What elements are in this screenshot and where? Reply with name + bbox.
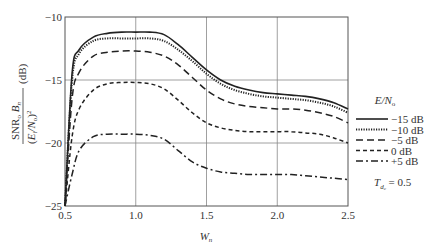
y-tick-label: −15 bbox=[45, 74, 63, 86]
svg-text:(dB): (dB) bbox=[16, 64, 29, 85]
y-tick-label: −10 bbox=[45, 11, 63, 23]
snr-chart: 0.51.01.52.02.5−10−15−20−25 SNRo Bn (Ei/… bbox=[0, 0, 439, 251]
x-axis-label: Wn bbox=[200, 230, 213, 244]
svg-text:(Ei/No)2: (Ei/No)2 bbox=[25, 110, 39, 144]
y-tick-label: −25 bbox=[45, 200, 63, 212]
legend-label: +5 dB bbox=[391, 155, 418, 167]
x-tick-label: 2.0 bbox=[270, 209, 284, 221]
grid-lines bbox=[65, 17, 348, 206]
x-tick-label: 1.0 bbox=[129, 209, 143, 221]
x-tick-label: 2.5 bbox=[341, 209, 355, 221]
annotation-tdc: Tdc = 0.5 bbox=[374, 176, 412, 191]
legend-title: E/No bbox=[374, 94, 396, 108]
y-tick-label: −20 bbox=[45, 137, 63, 149]
svg-text:SNRo Bn: SNRo Bn bbox=[9, 102, 23, 140]
x-tick-label: 1.5 bbox=[200, 209, 214, 221]
y-axis-label: SNRo Bn (Ei/No)2 (dB) bbox=[9, 64, 39, 145]
legend: E/No −15 dB−10 dB−5 dB0 dB+5 dB bbox=[356, 94, 424, 167]
